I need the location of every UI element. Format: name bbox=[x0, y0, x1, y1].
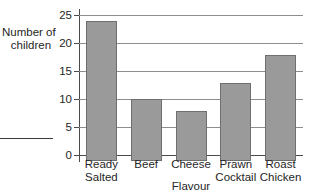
bar bbox=[131, 99, 162, 161]
y-axis-tick-label: 0 bbox=[66, 149, 72, 161]
y-axis-tick-label: 15 bbox=[59, 65, 72, 77]
y-axis-title-line-1: Number of bbox=[2, 26, 60, 39]
y-axis-tick-label: 20 bbox=[59, 37, 72, 49]
y-axis-tick-label: 5 bbox=[66, 121, 72, 133]
x-axis-category-label-line-1: Ready bbox=[79, 158, 124, 171]
bar bbox=[265, 55, 296, 161]
bar bbox=[176, 111, 207, 161]
bar-chart-figure: Number of children 0510152025 ReadySalte… bbox=[0, 0, 323, 195]
plot-inner: 0510152025 bbox=[79, 15, 303, 155]
x-axis-category-label-line-1: Roast bbox=[258, 158, 303, 171]
x-axis-title: Flavour bbox=[79, 180, 303, 192]
bars-group bbox=[79, 15, 303, 161]
answer-rule bbox=[0, 138, 53, 139]
x-axis-category-label: Cheese bbox=[169, 158, 214, 171]
plot-area: 0510152025 bbox=[79, 9, 303, 156]
x-axis-category-label: Beef bbox=[124, 158, 169, 171]
x-axis-category-label-line-1: Beef bbox=[124, 158, 169, 171]
x-axis-category-label-line-1: Prawn bbox=[213, 158, 258, 171]
bar bbox=[220, 83, 251, 161]
y-axis-title-line-2: children bbox=[2, 39, 60, 52]
y-axis-tick-label: 25 bbox=[59, 9, 72, 21]
y-axis-title: Number of children bbox=[2, 26, 60, 52]
x-axis-category-label-line-1: Cheese bbox=[169, 158, 214, 171]
bar bbox=[86, 21, 117, 161]
y-axis-tick-label: 10 bbox=[59, 93, 72, 105]
